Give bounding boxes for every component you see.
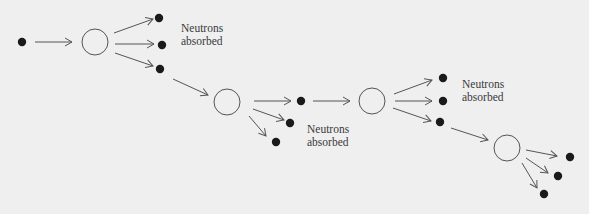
- neutron: [540, 190, 548, 198]
- arrow: [115, 53, 153, 66]
- label-neutrons-absorbed: absorbed: [462, 91, 504, 103]
- label-neutrons-absorbed: absorbed: [181, 35, 223, 47]
- label-neutrons-absorbed: Neutrons: [307, 123, 350, 135]
- neutron: [156, 65, 164, 73]
- nucleus: [214, 89, 240, 115]
- arrow: [114, 19, 153, 33]
- arrow: [526, 158, 548, 173]
- label-neutrons-absorbed: Neutrons: [462, 78, 505, 90]
- arrow: [451, 128, 488, 140]
- arrows: [35, 19, 557, 188]
- label-neutrons-absorbed: absorbed: [307, 136, 349, 148]
- arrow: [393, 108, 431, 121]
- neutron: [286, 119, 294, 127]
- arrow: [522, 163, 537, 188]
- neutron: [554, 172, 562, 180]
- arrow: [394, 80, 432, 94]
- neutron: [155, 14, 163, 22]
- neutron: [439, 74, 447, 82]
- neutron: [566, 153, 574, 161]
- neutron: [18, 38, 26, 46]
- arrow: [249, 116, 266, 136]
- neutron: [158, 41, 166, 49]
- arrow: [526, 150, 557, 156]
- arrow: [253, 109, 284, 120]
- arrow: [173, 79, 208, 95]
- nodes: [18, 14, 574, 198]
- label-neutrons-absorbed: Neutrons: [181, 22, 224, 34]
- neutron: [272, 138, 280, 146]
- nucleus: [82, 29, 108, 55]
- neutron: [439, 97, 447, 105]
- neutron: [297, 97, 305, 105]
- nucleus: [494, 135, 520, 161]
- chain-reaction-diagram: Neutrons absorbed Neutrons absorbed Neut…: [0, 0, 589, 214]
- nucleus: [359, 88, 385, 114]
- neutron: [436, 118, 444, 126]
